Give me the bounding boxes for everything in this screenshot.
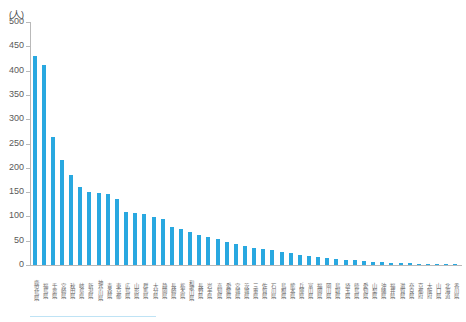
bar [362, 261, 366, 265]
x-axis-label: 栃木県 [177, 267, 185, 313]
bar [426, 264, 430, 265]
y-tick-label: 500 [9, 16, 24, 26]
bar [152, 217, 156, 265]
bar [280, 252, 284, 265]
bar [142, 214, 146, 265]
x-axis-label: 北海道 [442, 267, 450, 313]
x-axis-label: 兵庫県 [296, 267, 304, 313]
x-axis-label: 佐賀県 [259, 267, 267, 313]
bar [334, 259, 338, 265]
x-axis-label: 愛知県 [360, 267, 368, 313]
bar [307, 256, 311, 265]
bar [399, 263, 403, 265]
bar [417, 264, 421, 265]
bar [298, 255, 302, 265]
x-axis-label: 埼玉県 [342, 267, 350, 313]
x-axis-label: 三重県 [250, 267, 258, 313]
x-axis-label: 富山県 [305, 267, 313, 313]
bar [124, 212, 128, 265]
x-axis-label: 山口県 [433, 267, 441, 313]
bar [453, 264, 457, 265]
y-tick-label: 0 [19, 259, 24, 269]
x-axis-label: 広島県 [122, 267, 130, 313]
y-tick-label: 150 [9, 186, 24, 196]
y-tick-label: 300 [9, 113, 24, 123]
x-axis-label: 千葉県 [49, 267, 57, 313]
bar [69, 175, 73, 265]
x-axis-label: 滋賀県 [397, 267, 405, 313]
bar [115, 199, 119, 265]
x-axis-label: 高知県 [214, 267, 222, 313]
x-axis-label: 愛媛県 [223, 267, 231, 313]
bar [197, 235, 201, 265]
x-axis-label: 岡山県 [323, 267, 331, 313]
x-axis-label: 宮城県 [232, 267, 240, 313]
x-axis-label: 大分県 [150, 267, 158, 313]
y-tick-label: 100 [9, 210, 24, 220]
x-axis-label: 大阪府 [424, 267, 432, 313]
bar [380, 262, 384, 265]
x-axis-label: 神奈川県 [95, 267, 103, 313]
plot-area: 050100150200250300350400450500 [30, 22, 460, 265]
bar [78, 187, 82, 265]
x-axis-label: 沖縄県 [378, 267, 386, 313]
x-axis-label: 福井県 [387, 267, 395, 313]
bar [444, 264, 448, 265]
bar [33, 56, 37, 265]
footer-divider [30, 316, 156, 317]
x-axis-label: 京都府 [415, 267, 423, 313]
bar [42, 65, 46, 265]
x-axis-label: 奈良県 [406, 267, 414, 313]
bar [87, 192, 91, 265]
bar [389, 263, 393, 265]
y-tick-label: 400 [9, 65, 24, 75]
x-axis-label: 鳥取県 [332, 267, 340, 313]
x-axis-label: 群馬県 [140, 267, 148, 313]
bar [252, 248, 256, 265]
bar [243, 246, 247, 265]
bar [289, 253, 293, 265]
bar [234, 244, 238, 265]
x-axis-label: 長野県 [195, 267, 203, 313]
bar [344, 260, 348, 265]
bar [51, 137, 55, 265]
bar [60, 160, 64, 265]
bar [225, 242, 229, 265]
x-axis-label: 東京都 [113, 267, 121, 313]
x-axis-label: 鹿児島県 [31, 267, 39, 313]
x-axis-label: 石川県 [268, 267, 276, 313]
x-axis-label: 茨城県 [241, 267, 249, 313]
y-tick-label: 450 [9, 40, 24, 50]
y-tick-label: 350 [9, 89, 24, 99]
bar [170, 227, 174, 265]
x-axis-label: 岐阜県 [76, 267, 84, 313]
x-axis-labels: 鹿児島県福島県千葉県宮崎県秋田県岐阜県新潟県神奈川県青森県東京都広島県山形県群馬… [30, 267, 460, 317]
x-axis-label: 和歌山県 [186, 267, 194, 313]
x-axis-label: 徳島県 [351, 267, 359, 313]
x-axis-label: 宮崎県 [58, 267, 66, 313]
bar [133, 213, 137, 265]
y-tick-label: 200 [9, 162, 24, 172]
bar [316, 257, 320, 265]
x-axis-label: 山形県 [131, 267, 139, 313]
bar [216, 239, 220, 265]
y-tick-label: 250 [9, 138, 24, 148]
y-tick-mark [26, 265, 30, 266]
bar [325, 258, 329, 265]
bar [408, 263, 412, 265]
bar [261, 249, 265, 265]
x-axis-label: 香川県 [451, 267, 459, 313]
bar [179, 229, 183, 265]
bar [371, 262, 375, 265]
bar [353, 260, 357, 265]
bar [161, 219, 165, 265]
x-axis-label: 秋田県 [67, 267, 75, 313]
x-axis-label: 福岡県 [314, 267, 322, 313]
bar [270, 250, 274, 265]
x-axis-label: 静岡県 [159, 267, 167, 313]
x-axis-line [30, 265, 462, 266]
bar [106, 194, 110, 265]
x-axis-label: 新潟県 [85, 267, 93, 313]
bar [206, 237, 210, 265]
x-axis-label: 長崎県 [168, 267, 176, 313]
